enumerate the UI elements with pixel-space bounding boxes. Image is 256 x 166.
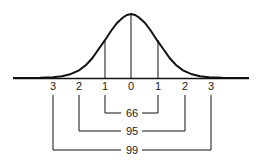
range-label-99: 99 [126,144,138,156]
tick-label-plus-1: 1 [155,80,161,92]
tick-label-0: 0 [128,80,134,92]
range-label-66: 66 [126,107,138,119]
tick-label-minus-2: 2 [76,80,82,92]
range-bracket-1sd: 66 [105,95,158,119]
tick-label-plus-3: 3 [208,80,214,92]
tick-label-minus-1: 1 [102,80,108,92]
tick-label-plus-2: 2 [182,80,188,92]
tick-label-minus-3: 3 [50,80,56,92]
range-label-95: 95 [126,125,138,137]
normal-distribution-diagram: 3 2 1 0 1 2 3 66 95 99 [0,0,256,166]
